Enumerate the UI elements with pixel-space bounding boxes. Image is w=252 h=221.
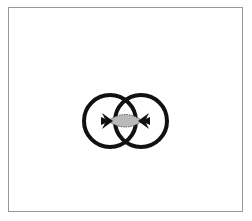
intersection-lens: [108, 115, 143, 128]
right-arrow-icon: [138, 113, 150, 129]
interlocking-rings-diagram: [0, 0, 252, 221]
left-arrow-icon: [101, 113, 113, 129]
